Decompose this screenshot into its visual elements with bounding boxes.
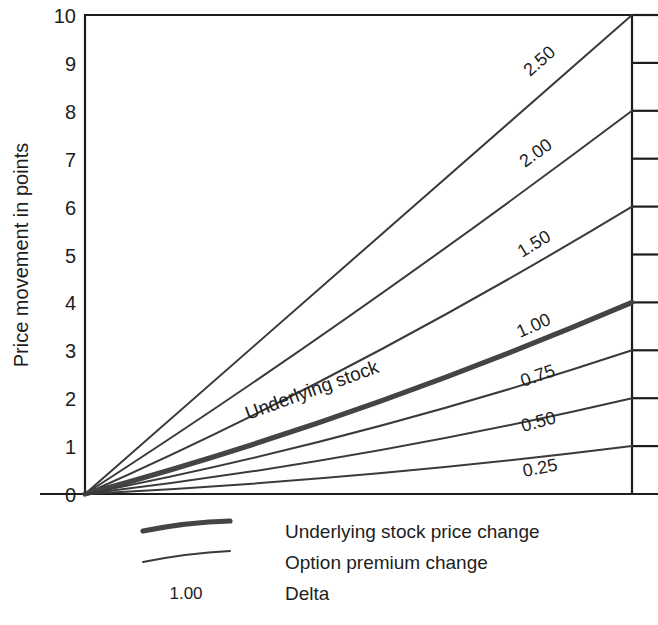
y-tick-label-0: 0 (65, 484, 76, 506)
chart-figure: 10 9 8 7 6 5 4 3 2 1 0 Price movement in… (0, 0, 658, 625)
curve-label-2-00: 2.00 (516, 134, 556, 171)
legend-label-underlying-stock-price-change: Underlying stock price change (285, 521, 540, 542)
legend-label-delta: Delta (285, 583, 330, 604)
curve-label-0-50: 0.50 (519, 407, 558, 435)
y-axis-title: Price movement in points (10, 143, 32, 368)
y-tick-label-3: 3 (65, 340, 76, 362)
curve-labels: 2.50 2.00 1.50 1.00 0.75 0.50 0.25 (513, 42, 559, 481)
y-tick-label-5: 5 (65, 245, 76, 267)
right-axis-ticks (632, 15, 658, 446)
underlying-stock-annotation: Underlying stock (242, 356, 382, 424)
curve-delta-1-50 (85, 207, 632, 494)
y-tick-label-6: 6 (65, 197, 76, 219)
y-tick-label-4: 4 (65, 292, 76, 314)
y-tick-label-8: 8 (65, 101, 76, 123)
y-tick-label-7: 7 (65, 149, 76, 171)
legend-swatch-thick-line (143, 521, 230, 531)
delta-curves-chart: 10 9 8 7 6 5 4 3 2 1 0 Price movement in… (0, 0, 658, 625)
plot-frame (40, 15, 658, 494)
legend-value-delta-example: 1.00 (169, 584, 202, 603)
y-tick-label-1: 1 (65, 436, 76, 458)
legend-label-option-premium-change: Option premium change (285, 552, 488, 573)
y-tick-label-2: 2 (65, 388, 76, 410)
chart-legend: Underlying stock price change Option pre… (143, 521, 540, 604)
curve-label-2-50: 2.50 (520, 42, 560, 80)
y-tick-label-9: 9 (65, 53, 76, 75)
curve-label-0-75: 0.75 (518, 360, 558, 390)
legend-swatch-thin-line (143, 551, 230, 562)
y-tick-label-10: 10 (54, 5, 76, 27)
y-axis-tick-labels: 10 9 8 7 6 5 4 3 2 1 0 (54, 5, 76, 506)
curve-delta-2-00 (85, 111, 632, 494)
